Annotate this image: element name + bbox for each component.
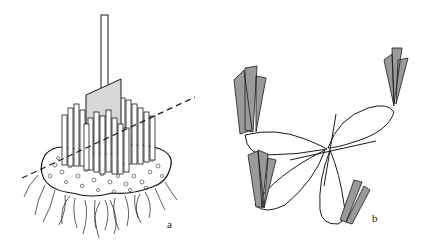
leaf-fan-upper-right: [384, 48, 408, 106]
panel-label-a: a: [167, 219, 172, 230]
leaf-fan-lower-center: [340, 180, 370, 224]
piece-upper-right: [328, 106, 394, 148]
piece-lower-center: [320, 150, 345, 224]
panel-label-b: b: [372, 213, 378, 224]
illustration-figure: a b: [0, 0, 444, 251]
leaf-fan-upper-left: [234, 66, 266, 134]
